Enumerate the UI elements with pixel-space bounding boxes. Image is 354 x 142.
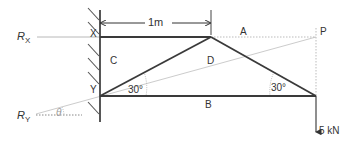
joint-y-label: Y (90, 85, 97, 95)
dimension-label: 1m (148, 17, 163, 28)
angle-right-label: 30° (271, 83, 286, 93)
rx-subscript: X (25, 36, 30, 45)
region-b-label: B (205, 100, 212, 110)
rx-label: RX (17, 31, 30, 42)
member-diagonal-right (211, 37, 316, 96)
theta-label: θ (56, 108, 61, 118)
rx-symbol: R (17, 30, 25, 42)
angle-left-label: 30° (128, 85, 143, 95)
member-diagonal-left (100, 37, 211, 96)
region-a-label: A (240, 27, 247, 37)
ry-label: RY (17, 110, 30, 121)
ry-reaction-line (36, 37, 316, 114)
joint-p-label: P (320, 27, 327, 37)
load-label: 5 kN (319, 126, 340, 136)
joint-x-label: X (90, 29, 97, 39)
ry-symbol: R (17, 109, 25, 121)
theta-arc (62, 107, 64, 115)
ry-subscript: Y (25, 115, 30, 124)
truss-diagram (0, 0, 354, 142)
region-d-label: D (207, 56, 214, 66)
region-c-label: C (110, 56, 117, 66)
